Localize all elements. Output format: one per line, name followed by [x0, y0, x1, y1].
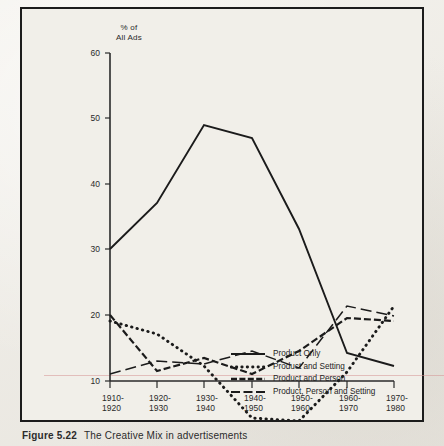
chart-legend: Product Only Product and Setting Product… [230, 348, 375, 398]
scanned-page: % of All Ads [0, 0, 444, 446]
x-tick-bottom-1: 1920 [102, 403, 148, 413]
x-tick-top-1: 1910- [102, 393, 148, 403]
legend-label-product-person-and-setting: Product, Person and Setting [273, 387, 375, 396]
legend-key-dash-thick-icon [230, 374, 266, 383]
y-tick-label-10: 10 [74, 376, 100, 386]
y-tick-label-50: 50 [74, 113, 100, 123]
legend-label-product-only: Product Only [273, 349, 320, 358]
figure-caption-number: Figure 5.22 [22, 430, 77, 441]
y-tick-label-60: 60 [74, 48, 100, 58]
legend-key-dotted-icon [230, 362, 266, 371]
x-tick-label-1910-1920: 1910- 1920 [102, 393, 148, 413]
x-tick-bottom-2: 1930 [149, 403, 195, 413]
legend-key-solid-icon [230, 349, 266, 358]
x-tick-bottom-3: 1940 [196, 403, 242, 413]
series-product-only [110, 125, 394, 366]
legend-item-product-person-and-setting: Product, Person and Setting [230, 386, 375, 397]
figure-frame: % of All Ads [20, 7, 424, 422]
figure-caption-text: The Creative Mix in advertisements [84, 430, 248, 441]
x-tick-bottom-4: 1950 [244, 403, 290, 413]
x-tick-label-1920-1930: 1920- 1930 [149, 393, 195, 413]
y-tick-label-30: 30 [74, 244, 100, 254]
legend-item-product-and-setting: Product and Setting [230, 361, 375, 372]
legend-item-product-only: Product Only [230, 348, 375, 359]
legend-item-product-and-person: Product and Person [230, 373, 375, 384]
x-tick-bottom-7: 1980 [386, 403, 432, 413]
x-tick-label-1970-1980: 1970- 1980 [386, 393, 432, 413]
legend-label-product-and-setting: Product and Setting [273, 362, 345, 371]
y-tick-label-20: 20 [74, 310, 100, 320]
x-tick-bottom-5: 1960 [291, 403, 337, 413]
legend-label-product-and-person: Product and Person [273, 374, 345, 383]
x-tick-bottom-6: 1970 [339, 403, 385, 413]
x-tick-top-2: 1920- [149, 393, 195, 403]
y-tick-label-40: 40 [74, 179, 100, 189]
x-tick-top-7: 1970- [386, 393, 432, 403]
legend-key-dash-long-icon [230, 387, 266, 396]
figure-caption: Figure 5.22The Creative Mix in advertise… [22, 430, 442, 441]
